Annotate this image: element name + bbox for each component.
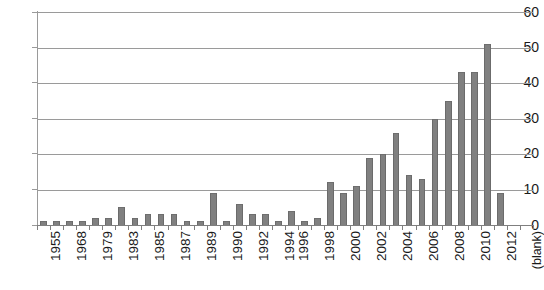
x-tick-mark	[246, 225, 247, 230]
bar-slot	[458, 12, 465, 225]
bar-slot	[445, 12, 452, 225]
x-tick-mark	[181, 225, 182, 230]
bar-slot	[92, 12, 99, 225]
x-tick-label: 2002	[375, 231, 389, 261]
x-tick-mark	[102, 225, 103, 230]
x-tick-mark	[494, 225, 495, 230]
x-tick-mark	[376, 225, 377, 230]
x-tick-label: 2004	[401, 231, 415, 261]
bar[interactable]	[340, 193, 347, 225]
x-tick-label: 1998	[323, 231, 337, 261]
bar[interactable]	[497, 193, 504, 225]
x-tick-mark	[416, 225, 417, 230]
bar-slot	[406, 12, 413, 225]
x-axis-labels: 1955196819791983198519871989199019921994…	[37, 231, 533, 289]
bar-slot	[523, 12, 530, 225]
bar[interactable]	[419, 179, 426, 225]
x-tick-label: 2012	[505, 231, 519, 261]
bar-slot	[262, 12, 269, 225]
bar[interactable]	[366, 158, 373, 225]
bar[interactable]	[353, 186, 360, 225]
x-tick-mark	[337, 225, 338, 230]
bar-slot	[432, 12, 439, 225]
bar[interactable]	[380, 154, 387, 225]
bar[interactable]	[327, 182, 334, 225]
bar-slot	[40, 12, 47, 225]
bar[interactable]	[132, 218, 139, 225]
bar-slot	[353, 12, 360, 225]
bar-slot	[366, 12, 373, 225]
bar[interactable]	[262, 214, 269, 225]
bar[interactable]	[484, 44, 491, 225]
bar[interactable]	[158, 214, 165, 225]
bar-slot	[497, 12, 504, 225]
x-tick-label: 2000	[349, 231, 363, 261]
bar-slot	[105, 12, 112, 225]
x-tick-label: 1996	[297, 231, 311, 261]
bar[interactable]	[249, 214, 256, 225]
x-tick-mark	[220, 225, 221, 230]
x-tick-label: 1985	[153, 231, 167, 261]
x-tick-mark	[168, 225, 169, 230]
bar-slot	[327, 12, 334, 225]
plot-area	[37, 12, 533, 225]
bar-slot	[275, 12, 282, 225]
bar[interactable]	[288, 211, 295, 225]
bar[interactable]	[445, 101, 452, 225]
x-tick-mark	[141, 225, 142, 230]
bar[interactable]	[171, 214, 178, 225]
x-tick-mark	[63, 225, 64, 230]
bar[interactable]	[92, 218, 99, 225]
bar-slot	[118, 12, 125, 225]
bar-slot	[301, 12, 308, 225]
x-tick-label: 1994	[283, 231, 297, 261]
bar[interactable]	[406, 175, 413, 225]
x-tick-mark	[298, 225, 299, 230]
bar-slot	[210, 12, 217, 225]
x-tick-label: 1968	[75, 231, 89, 261]
x-axis-ticks	[37, 225, 533, 230]
bar[interactable]	[236, 204, 243, 225]
x-tick-label: 2006	[427, 231, 441, 261]
bar-slot	[236, 12, 243, 225]
bar-slot	[145, 12, 152, 225]
bar-slot	[197, 12, 204, 225]
bar-slot	[471, 12, 478, 225]
x-tick-mark	[311, 225, 312, 230]
bar-slot	[380, 12, 387, 225]
x-tick-mark	[259, 225, 260, 230]
x-tick-mark	[207, 225, 208, 230]
bar-slot	[510, 12, 517, 225]
x-tick-mark	[468, 225, 469, 230]
x-tick-mark	[389, 225, 390, 230]
x-tick-label: 1979	[101, 231, 115, 261]
bar-slot	[66, 12, 73, 225]
bar[interactable]	[210, 193, 217, 225]
x-tick-mark	[37, 225, 38, 230]
bar-slot	[184, 12, 191, 225]
x-tick-mark	[455, 225, 456, 230]
x-tick-mark	[233, 225, 234, 230]
x-tick-mark	[50, 225, 51, 230]
x-tick-mark	[507, 225, 508, 230]
bar-slot	[171, 12, 178, 225]
x-tick-label: 1989	[205, 231, 219, 261]
x-tick-mark	[76, 225, 77, 230]
bar[interactable]	[314, 218, 321, 225]
x-tick-mark	[350, 225, 351, 230]
x-tick-mark	[194, 225, 195, 230]
bar-slot	[53, 12, 60, 225]
bar[interactable]	[458, 72, 465, 225]
bar-slot	[132, 12, 139, 225]
x-tick-mark	[429, 225, 430, 230]
bar[interactable]	[118, 207, 125, 225]
bar-slot	[484, 12, 491, 225]
bar-slot	[249, 12, 256, 225]
bar[interactable]	[105, 218, 112, 225]
bar[interactable]	[432, 119, 439, 226]
x-tick-mark	[363, 225, 364, 230]
bar[interactable]	[393, 133, 400, 225]
bar-series	[37, 12, 533, 225]
bar[interactable]	[471, 72, 478, 225]
bar[interactable]	[145, 214, 152, 225]
